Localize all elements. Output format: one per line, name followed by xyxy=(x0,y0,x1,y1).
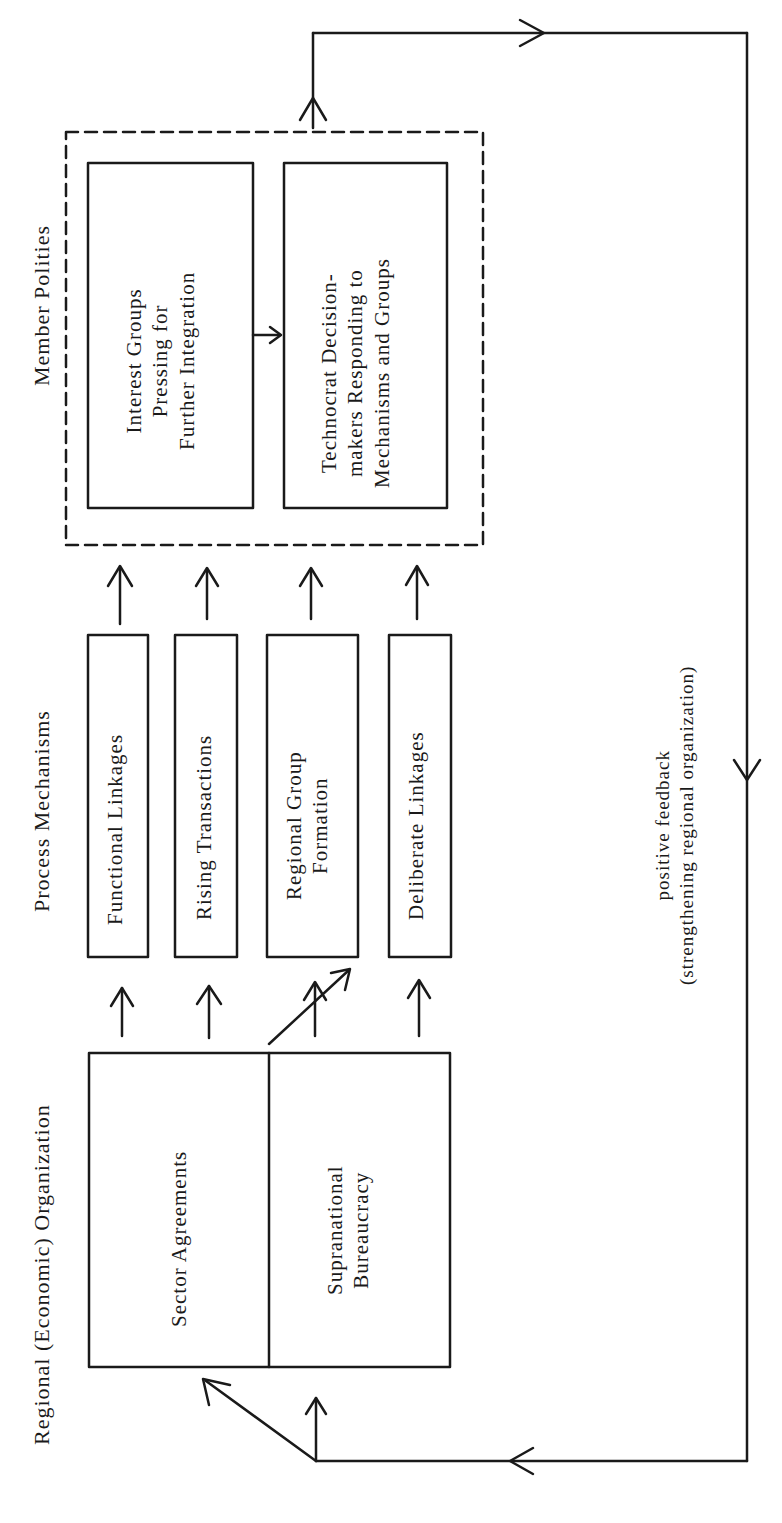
arrow-interest-to-technocrat-icon xyxy=(253,327,281,343)
feedback-label: positive feedback (strengthening regiona… xyxy=(651,666,699,985)
arrow-up-icon xyxy=(300,568,322,619)
heading-member-polities: Member Polities xyxy=(28,225,56,386)
regional-integration-diagram: Regional (Economic) Organization Process… xyxy=(0,0,782,1523)
arrow-up-icon xyxy=(108,566,132,624)
arrow-up-icon xyxy=(408,980,430,1036)
technocrat-label: Technocrat Decision- makers Responding t… xyxy=(316,258,395,488)
arrow-up-icon xyxy=(197,986,221,1038)
process-label-regional-group: Regional Group Formation xyxy=(281,751,334,900)
supranational-label: Supranational Bureaucracy xyxy=(322,1165,375,1295)
sector-agreements-label: Sector Agreements xyxy=(166,1151,192,1327)
arrow-up-icon xyxy=(196,568,218,619)
heading-regional-org: Regional (Economic) Organization xyxy=(28,1104,56,1445)
arrow-up-icon xyxy=(111,988,133,1036)
process-label-deliberate: Deliberate Linkages xyxy=(403,731,429,920)
arrow-up-icon xyxy=(406,566,428,619)
interest-groups-label: Interest Groups Pressing for Further Int… xyxy=(121,272,200,450)
process-label-functional: Functional Linkages xyxy=(102,734,128,925)
heading-process-mechanisms: Process Mechanisms xyxy=(28,710,56,912)
process-label-rising: Rising Transactions xyxy=(191,735,217,920)
arrow-diagonal-icon xyxy=(269,969,350,1044)
